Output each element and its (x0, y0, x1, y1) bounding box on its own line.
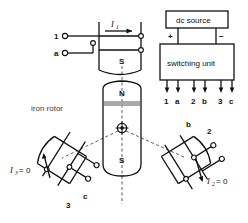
current-i1-arrow-head (127, 29, 133, 34)
current-i2-value: = 0 (216, 177, 228, 186)
coil-left-winding-turn-2 (58, 142, 86, 186)
dc-source-block[interactable]: dc source (166, 11, 228, 28)
current-i2-symbol: I (206, 176, 211, 186)
coil-right-terminal-b[interactable] (210, 142, 217, 149)
coil-left-terminal-3[interactable] (85, 175, 92, 182)
switch-output-c (230, 80, 235, 93)
switch-output-3 (219, 80, 224, 93)
switch-output-2-arrow (192, 88, 197, 93)
stator-top-coil (67, 22, 143, 75)
switching-unit-outputs (165, 80, 235, 93)
current-i3-arrow-head (42, 153, 47, 159)
dc-plus-label: + (168, 32, 173, 41)
terminal-1-label: 1 (54, 32, 59, 41)
coil-left-assembly (30, 124, 106, 198)
coil-right-terminal-2[interactable] (218, 155, 225, 162)
rotor-south-label: S (119, 156, 125, 165)
stator-top-winding-node-right-2 (139, 48, 144, 53)
switch-output-a-arrow (176, 88, 181, 93)
switch-output-1 (165, 80, 170, 93)
motor-switching-diagram: N S iron rotor 1 a S I (0, 0, 248, 223)
coil-right-terminal-2-label: 2 (207, 127, 212, 136)
terminal-a-label: a (54, 49, 59, 58)
switching-unit-block[interactable]: switching unit (160, 44, 234, 80)
stator-top-pole-label: S (119, 57, 125, 66)
rotor-shaft-icon (116, 122, 129, 135)
stator-top-winding-node-right-1 (139, 34, 144, 39)
switch-terminal-label-a: a (175, 97, 180, 106)
coil-left-terminal-c-label: c (83, 192, 88, 201)
coil-left-lead-c (78, 153, 95, 164)
current-i1-symbol: I (110, 19, 115, 29)
switch-output-c-arrow (230, 88, 235, 93)
switch-terminal-label-c: c (229, 97, 234, 106)
switch-terminal-label-3: 3 (218, 97, 223, 106)
switch-terminal-label-b: b (202, 97, 207, 106)
switch-output-2 (192, 80, 197, 93)
current-i1-subscript: 1 (116, 24, 119, 30)
switch-output-a (176, 80, 181, 93)
coil-right-back (161, 156, 178, 183)
iron-rotor-label: iron rotor (31, 104, 63, 113)
coil-left-back (70, 156, 87, 183)
current-i3-value: = 0 (19, 166, 31, 175)
current-i3-subscript: 3 (14, 170, 18, 176)
coil-right-lead-2 (202, 160, 220, 171)
rotor-axis-to-left-coil (62, 131, 118, 158)
switch-terminal-label-2: 2 (191, 97, 196, 106)
rotor-north-label: N (119, 89, 125, 98)
coil-left-terminal-c[interactable] (93, 162, 100, 169)
switch-output-1-arrow (165, 88, 170, 93)
dc-minus-label: − (219, 32, 224, 41)
switching-unit-label: switching unit (167, 59, 216, 68)
coil-left-terminal-3-label: 3 (66, 201, 71, 210)
switch-terminal-label-1: 1 (164, 97, 169, 106)
switch-output-b (203, 80, 208, 93)
coil-left-pole-face (34, 135, 54, 164)
switch-output-b-arrow (203, 88, 208, 93)
current-i2-arrow-head (199, 176, 204, 182)
dc-source-label: dc source (176, 16, 211, 25)
rotor-lamination-band (104, 101, 140, 106)
coil-left-node-2 (66, 164, 72, 170)
coil-right-terminal-b-label: b (186, 120, 191, 129)
coil-left-lead-3 (69, 167, 86, 178)
diagram-canvas: N S iron rotor 1 a S I (0, 0, 248, 223)
terminal-1-stator-top[interactable] (62, 33, 67, 38)
current-i2-subscript: 2 (212, 181, 215, 187)
terminal-a-stator-top[interactable] (62, 50, 67, 55)
dc-source-connections (178, 28, 216, 44)
coil-right-node-2 (183, 176, 189, 182)
rotor-axis-to-right-coil (126, 131, 186, 158)
stator-top-pole-face (99, 70, 141, 75)
coil-right-winding-turn-2 (165, 145, 193, 189)
current-i3-symbol: I (9, 165, 14, 175)
stator-top-winding-node-left (91, 41, 96, 46)
switch-output-3-arrow (219, 88, 224, 93)
